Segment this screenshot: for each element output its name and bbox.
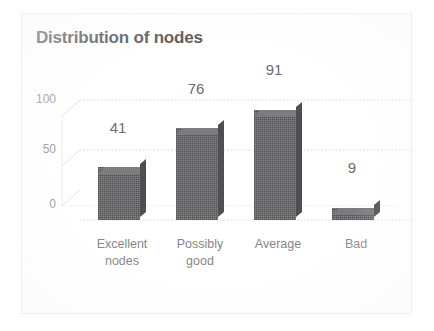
bar-excellent-nodes [98, 167, 140, 220]
bar-front-face [254, 110, 296, 220]
plot-area: 100 50 0 41 76 [22, 69, 413, 229]
category-label-bad: Bad [318, 236, 394, 253]
bar-bad [332, 208, 374, 220]
category-label-line: nodes [84, 253, 160, 270]
category-label-line: good [162, 253, 238, 270]
bar-average [254, 110, 296, 220]
category-label-line: Excellent [84, 236, 160, 253]
category-label-line: Average [240, 236, 316, 253]
bar-front-face [176, 128, 218, 220]
bar-value-possibly-good: 76 [176, 80, 216, 97]
chart-frame: Distribution of nodes 100 50 0 [21, 13, 412, 314]
bar-value-bad: 9 [332, 159, 372, 176]
bar-value-excellent-nodes: 41 [98, 119, 138, 136]
bar-front-face [98, 167, 140, 220]
bar-value-average: 91 [254, 61, 294, 78]
bar-side-face [140, 159, 146, 217]
chart-title: Distribution of nodes [36, 28, 203, 48]
bar-side-face [296, 102, 302, 217]
category-label-possibly-good: Possibly good [162, 236, 238, 270]
category-label-line: Possibly [162, 236, 238, 253]
y-tick-label-50: 50 [22, 142, 56, 156]
category-label-line: Bad [318, 236, 394, 253]
category-label-excellent-nodes: Excellent nodes [84, 236, 160, 270]
bar-side-face [218, 120, 224, 217]
y-tick-label-0: 0 [22, 197, 56, 211]
category-label-average: Average [240, 236, 316, 253]
bar-possibly-good [176, 128, 218, 220]
y-tick-label-100: 100 [22, 92, 56, 106]
